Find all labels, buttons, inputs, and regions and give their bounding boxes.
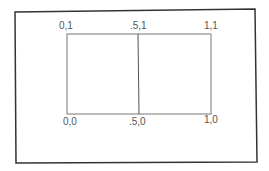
diagram-canvas: 0,1 .5,1 1,1 0,0 .5,0 1,0 xyxy=(0,0,269,171)
label-top-right: 1,1 xyxy=(204,21,218,31)
label-bottom-mid: .5,0 xyxy=(129,117,146,127)
label-bottom-right: 1,0 xyxy=(204,115,218,125)
label-top-left: 0,1 xyxy=(59,21,73,31)
midline xyxy=(138,34,139,114)
label-bottom-left: 0,0 xyxy=(63,117,77,127)
label-top-mid: .5,1 xyxy=(130,21,147,31)
outer-frame xyxy=(15,9,257,163)
